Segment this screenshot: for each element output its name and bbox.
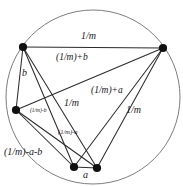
vertex-top-left	[19, 43, 27, 51]
edge-top-left-to-top-right	[23, 47, 163, 48]
label-1-over-m-right: 1/m	[126, 105, 141, 115]
label-1-over-m-minus-a: (1/m)-a	[58, 129, 78, 136]
edge-top-right-to-bottom-left	[74, 48, 163, 167]
vertex-bottom-right	[93, 164, 101, 172]
label-b: b	[22, 68, 27, 78]
figure-container: 1/m (1/m)+b b (1/m)+a 1/m 1/m (1/m)-b (1…	[0, 0, 183, 186]
label-1-over-m-plus-b: (1/m)+b	[56, 53, 88, 63]
label-1-over-m-top: 1/m	[81, 31, 96, 41]
label-1-over-m-plus-a: (1/m)+a	[91, 86, 123, 96]
vertex-bottom-left	[70, 163, 78, 171]
edge-left-to-bottom-right	[16, 110, 97, 168]
vertex-top-right	[159, 44, 167, 52]
edge-top-left-to-left	[16, 47, 23, 110]
label-a: a	[83, 170, 88, 180]
label-1-over-m-center: 1/m	[64, 98, 79, 108]
edge-left-to-bottom-left	[16, 110, 74, 167]
label-1-over-m-minus-a-b: (1/m)-a-b	[4, 147, 42, 157]
edge-top-right-to-left	[16, 48, 163, 110]
vertex-left	[12, 106, 20, 114]
label-1-over-m-minus-b: (1/m)-b	[30, 108, 47, 114]
